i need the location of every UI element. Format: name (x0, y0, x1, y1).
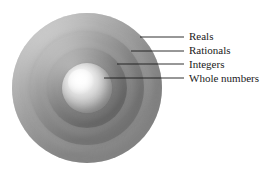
label-rationals: Rationals (189, 45, 231, 56)
number-systems-diagram: Reals Rationals Integers Whole numbers (0, 0, 275, 174)
nested-spheres-graphic (0, 0, 175, 174)
label-reals: Reals (189, 31, 213, 42)
label-whole-numbers: Whole numbers (189, 73, 259, 84)
sphere-shell-whole-numbers (62, 63, 112, 113)
label-integers: Integers (189, 59, 224, 70)
